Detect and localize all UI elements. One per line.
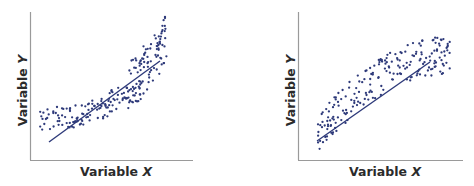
data-point [150, 60, 152, 62]
data-point [449, 41, 451, 43]
data-point [381, 60, 383, 62]
data-point [399, 66, 401, 68]
data-point [388, 66, 390, 68]
data-point [84, 105, 86, 107]
data-point [141, 57, 143, 59]
data-point [399, 51, 401, 53]
data-point [146, 88, 148, 90]
data-point [55, 112, 57, 114]
data-point [124, 97, 126, 99]
data-point [429, 59, 431, 61]
data-point [150, 43, 152, 45]
data-point [146, 62, 148, 64]
data-point [317, 141, 319, 143]
data-point [372, 72, 374, 74]
data-point [409, 64, 411, 66]
data-point [69, 122, 71, 124]
y-label-var: Y [283, 55, 298, 64]
x-axis-label-right: Variable X [349, 164, 421, 179]
data-point [104, 114, 106, 116]
data-point [324, 124, 326, 126]
data-point [81, 104, 83, 106]
x-label-text: Variable [80, 164, 138, 179]
data-point [432, 39, 434, 41]
data-points-right [317, 37, 451, 150]
data-point [163, 45, 165, 47]
data-point [423, 61, 425, 63]
data-point [363, 78, 365, 80]
data-point [353, 93, 355, 95]
data-point [358, 80, 360, 82]
data-point [318, 148, 320, 150]
data-point [337, 116, 339, 118]
data-point [87, 109, 89, 111]
data-point [364, 98, 366, 100]
data-point [329, 119, 331, 121]
data-point [161, 25, 163, 27]
data-point [89, 114, 91, 116]
data-point [412, 42, 414, 44]
data-point [42, 112, 44, 114]
data-point [143, 61, 145, 63]
x-label-text: Variable [349, 164, 407, 179]
data-point [369, 67, 371, 69]
data-point [137, 71, 139, 73]
data-point [407, 44, 409, 46]
data-point [43, 123, 45, 125]
data-point [81, 120, 83, 122]
data-point [337, 92, 339, 94]
data-point [137, 100, 139, 102]
data-point [156, 45, 158, 47]
data-point [57, 124, 59, 126]
data-point [434, 42, 436, 44]
data-point [357, 101, 359, 103]
data-point [341, 89, 343, 91]
data-point [325, 139, 327, 141]
data-point [322, 141, 324, 143]
data-point [416, 74, 418, 76]
scatter-chart-left: Variable Y Variable X [0, 0, 237, 186]
x-axis-label-left: Variable X [80, 164, 152, 179]
data-point [410, 61, 412, 63]
data-point [431, 52, 433, 54]
data-point [76, 118, 78, 120]
data-point [340, 98, 342, 100]
data-point [399, 59, 401, 61]
data-point [421, 39, 423, 41]
data-point [139, 93, 141, 95]
y-axis-label-left: Variable Y [15, 46, 30, 136]
data-point [140, 63, 142, 65]
data-point [149, 47, 151, 49]
data-point [444, 55, 446, 57]
y-label-var: Y [15, 55, 30, 64]
data-point [321, 121, 323, 123]
data-point [132, 101, 134, 103]
data-point [327, 125, 329, 127]
data-point [422, 63, 424, 65]
data-point [46, 108, 48, 110]
data-point [389, 72, 391, 74]
data-point [57, 114, 59, 116]
data-point [353, 100, 355, 102]
y-axis-label-right: Variable Y [283, 46, 298, 136]
data-point [56, 106, 58, 108]
data-point [110, 101, 112, 103]
data-point [139, 60, 141, 62]
data-point [93, 105, 95, 107]
data-point [365, 69, 367, 71]
data-point [129, 100, 131, 102]
data-point [61, 124, 63, 126]
data-point [382, 89, 384, 91]
data-point [156, 48, 158, 50]
data-point [128, 69, 130, 71]
data-point [149, 71, 151, 73]
data-point [356, 104, 358, 106]
data-point [337, 101, 339, 103]
data-point [110, 89, 112, 91]
data-point [355, 87, 357, 89]
data-point [107, 106, 109, 108]
data-point [143, 54, 145, 56]
data-point [88, 103, 90, 105]
data-point [391, 61, 393, 63]
data-point [164, 30, 166, 32]
